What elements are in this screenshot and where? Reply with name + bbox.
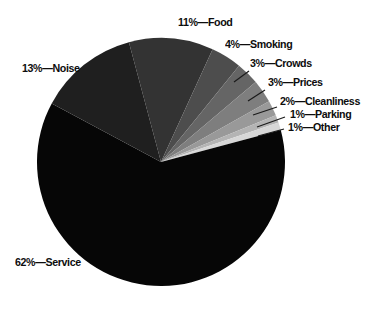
pie-chart-figure: 11%—Food4%—Smoking3%—Crowds3%—Prices2%—C…	[0, 0, 370, 317]
pie-chart-canvas	[0, 0, 370, 317]
